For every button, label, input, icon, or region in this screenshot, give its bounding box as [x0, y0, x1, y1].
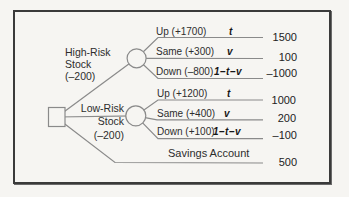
high-risk-stock-label: High-Risk Stock (–200): [65, 46, 111, 82]
lr-down-label: Down (+100): [157, 126, 215, 138]
hr-same-payoff: 100: [279, 51, 297, 63]
lr-same-probability: v: [224, 108, 230, 120]
savings-account-label: Savings Account: [168, 147, 249, 159]
hr-up-payoff: 1500: [273, 31, 297, 43]
hr-up-label: Up (+1700): [156, 26, 206, 38]
chance-node-circle-low-risk: [126, 106, 146, 126]
hr-same-label: Same (+300): [156, 46, 214, 58]
hr-down-label: Down (–800): [156, 66, 213, 78]
low-risk-label-line3: (–200): [78, 129, 124, 142]
lr-same-label: Same (+400): [157, 108, 215, 120]
lr-down-payoff: –100: [273, 129, 297, 141]
high-risk-label-line3: (–200): [65, 70, 111, 82]
hr-same-probability: v: [227, 46, 233, 58]
high-risk-label-line2: Stock: [65, 58, 111, 70]
lr-same-payoff: 200: [278, 112, 296, 124]
low-risk-stock-label: Low-Risk Stock (–200): [78, 102, 124, 142]
lr-up-label: Up (+1200): [157, 88, 207, 100]
decision-node-square: [49, 108, 66, 127]
high-risk-label-line1: High-Risk: [65, 46, 111, 58]
low-risk-label-line1: Low-Risk: [78, 102, 124, 115]
lr-up-payoff: 1000: [272, 94, 296, 106]
hr-down-payoff: –1000: [266, 67, 297, 79]
hr-down-probability: 1–t–v: [214, 66, 242, 78]
low-risk-label-line2: Stock: [78, 115, 124, 128]
chance-node-circle-high-risk: [127, 49, 146, 68]
lr-down-probability: 1–t–v: [213, 126, 241, 138]
savings-payoff: 500: [279, 156, 297, 168]
lr-up-probability: t: [227, 88, 231, 100]
hr-up-probability: t: [229, 26, 233, 38]
